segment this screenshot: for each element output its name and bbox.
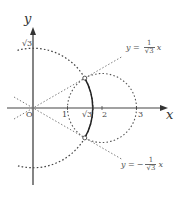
upper-eq-var: x xyxy=(157,44,162,52)
y-tick-sqrt3: √3 xyxy=(22,40,32,48)
upper-eq-fraction: 1 √3 xyxy=(144,40,155,55)
x-tick-sqrt3: √3 xyxy=(82,111,92,119)
x-tick-3: 3 xyxy=(138,111,143,119)
y-axis xyxy=(30,27,36,185)
lower-eq-sign: − xyxy=(137,161,144,169)
lower-line-equation: y = − 1 √3 x xyxy=(121,157,163,172)
upper-line-equation: y = 1 √3 x xyxy=(126,40,161,55)
lower-eq-numerator: 1 xyxy=(148,157,154,164)
upper-eq-denominator: √3 xyxy=(144,47,155,55)
y-axis-arrow-icon xyxy=(30,27,36,35)
x-tick-1: 1 xyxy=(62,111,67,119)
diagram-canvas: y x O √3 1 √3 2 3 y = 1 √3 x y = − 1 √3 … xyxy=(0,0,183,200)
lower-eq-var: x xyxy=(158,161,163,169)
lower-eq-fraction: 1 √3 xyxy=(145,157,156,172)
x-tick-2: 2 xyxy=(102,111,107,119)
upper-eq-numerator: 1 xyxy=(146,40,152,47)
x-axis-label: x xyxy=(166,108,173,121)
intersection-point-upper xyxy=(83,76,87,80)
lower-eq-lhs: y = xyxy=(121,161,135,169)
upper-eq-lhs: y = xyxy=(126,44,140,52)
line-y-equals-neg-x-over-sqrt3 xyxy=(14,97,122,159)
intersection-point-lower xyxy=(83,136,87,140)
lower-eq-denominator: √3 xyxy=(145,164,156,172)
origin-label: O xyxy=(26,111,33,119)
y-axis-label: y xyxy=(24,12,31,25)
